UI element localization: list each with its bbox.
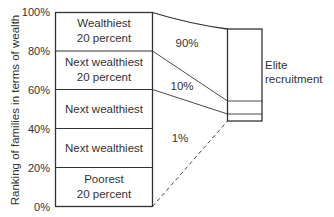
share-10: 10% — [170, 80, 193, 92]
tick-0: 0% — [34, 201, 50, 213]
elite-box — [228, 29, 263, 121]
segment-3-label: Next wealthiest — [65, 103, 144, 115]
elite-label-line1: Elite — [265, 59, 287, 71]
flow-1-dashed — [153, 121, 228, 207]
tick-60: 60% — [28, 84, 50, 96]
elite-label-line2: recruitment — [265, 73, 323, 85]
tick-40: 40% — [28, 123, 50, 135]
y-axis-label: Ranking of families in terms of wealth — [9, 15, 21, 205]
flow-top-curve — [153, 13, 228, 30]
segment-4-label: Next wealthiest — [65, 142, 144, 154]
segment-2-line2: 20 percent — [77, 71, 132, 83]
segment-5-line2: 20 percent — [77, 188, 132, 200]
segment-1-line2: 20 percent — [77, 32, 132, 44]
elite-recruitment-diagram: Ranking of families in terms of wealth 1… — [0, 0, 334, 217]
tick-100: 100% — [22, 6, 50, 18]
share-90: 90% — [175, 37, 198, 49]
segment-1-line1: Wealthiest — [77, 17, 131, 29]
segment-5-line1: Poorest — [84, 173, 124, 185]
tick-80: 80% — [28, 45, 50, 57]
segment-2-line1: Next wealthiest — [65, 56, 144, 68]
share-1: 1% — [172, 132, 189, 144]
tick-20: 20% — [28, 162, 50, 174]
